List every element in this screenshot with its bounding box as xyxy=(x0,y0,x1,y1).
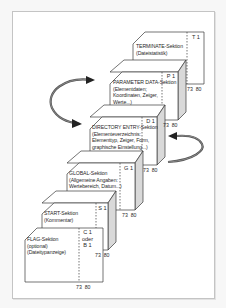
directory-code: D 1 xyxy=(144,118,157,124)
terminate-code: T 1 xyxy=(189,34,203,40)
parameter-columns: 73 80 xyxy=(163,122,177,128)
flag-title: FLAG-Sektion xyxy=(27,236,58,242)
directory-line-1: (Elementeverzeichnis: xyxy=(92,131,141,137)
start-title: START-Sektion xyxy=(44,210,78,216)
global-line-2: Wertebereich, Datum...) xyxy=(69,183,122,189)
parameter-title: PARAMETER DATA-Sektion xyxy=(113,79,176,85)
terminate-line-1: (Dateistatistik) xyxy=(136,50,167,56)
directory-line-3: graphische Einstellung...) xyxy=(92,144,148,150)
start-line-1: (Kommentar) xyxy=(44,217,73,223)
terminate-title: TERMINATE-Sektion xyxy=(136,43,183,49)
parameter-code: P 1 xyxy=(164,73,178,79)
arrow-head-up-icon xyxy=(86,76,95,84)
start-columns: 73 80 xyxy=(95,252,109,258)
global-columns: 73 80 xyxy=(122,212,136,218)
terminate-columns: 73 80 xyxy=(187,86,201,92)
flag-code-3: B 1 xyxy=(80,242,95,248)
arrow-head-down-icon xyxy=(72,119,82,128)
loop-arrow-right xyxy=(168,132,203,162)
arrow-head-left-icon xyxy=(168,132,177,140)
loop-arrow-left xyxy=(51,76,95,128)
directory-line-2: Elementtyp, Zeiger, Form, xyxy=(92,137,149,143)
start-code: S 1 xyxy=(97,205,108,211)
global-code: G 1 xyxy=(122,165,135,171)
parameter-line-2: Koordinaten, Zeiger, xyxy=(113,92,158,98)
parameter-line-3: Werte...) xyxy=(113,99,132,105)
directory-columns: 73 80 xyxy=(143,167,157,173)
flag-code-1: C 1 xyxy=(80,229,95,235)
directory-title: DIRECTORY ENTRY-Sektion xyxy=(92,124,157,130)
flag-line-2: (Dateitypanzeige) xyxy=(27,249,66,255)
flag-code-2: oder xyxy=(80,236,95,242)
flag-line-1: (optional) xyxy=(27,243,48,249)
global-line-1: (Allgemeine Angaben: xyxy=(69,177,118,183)
diagram-canvas xyxy=(0,0,226,308)
parameter-line-1: (Elementdaten; xyxy=(113,86,147,92)
flag-columns: 73 80 xyxy=(76,284,90,290)
global-title: GLOBAL-Sektion xyxy=(69,170,107,176)
